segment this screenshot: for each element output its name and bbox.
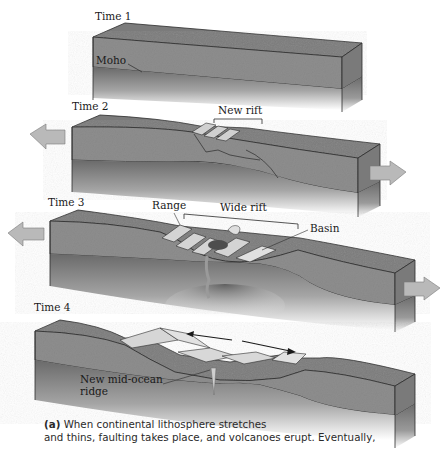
time-1-label: Time 1 (95, 10, 132, 22)
panel-time-2: Time 2 New rift (30, 100, 406, 217)
new-rift-bracket (214, 119, 262, 124)
wide-rift-bracket (184, 214, 298, 229)
mid-ocean-ridge-label-line2: ridge (80, 385, 108, 397)
new-rift-label: New rift (218, 104, 263, 116)
time-3-label: Time 3 (48, 196, 85, 208)
mid-ocean-ridge-label-line1: New mid-ocean (80, 373, 163, 385)
caption-line-1: When continental lithosphere stretches (60, 418, 266, 430)
left-extension-arrow (30, 124, 65, 149)
range-label: Range (152, 199, 186, 211)
left-extension-arrow (8, 222, 44, 246)
volcano (208, 240, 228, 250)
range-pointer (174, 213, 180, 225)
figure-caption: (a) When continental lithosphere stretch… (44, 418, 442, 444)
caption-line-2: and thins, faulting takes place, and vol… (44, 431, 442, 444)
magma-plume (165, 284, 285, 328)
panel-time-3: Time 3 Range Wide rift Basin (8, 196, 440, 332)
wide-rift-label: Wide rift (220, 201, 268, 213)
basin-label: Basin (310, 222, 340, 234)
moho-label: Moho (96, 54, 126, 66)
caption-label: (a) (44, 418, 60, 430)
time-4-label: Time 4 (34, 301, 71, 313)
continental-rifting-diagram: Time 1 Moho Time 2 New rift (0, 0, 442, 455)
panel-time-1: Time 1 Moho (93, 10, 362, 112)
time-2-label: Time 2 (72, 100, 109, 112)
